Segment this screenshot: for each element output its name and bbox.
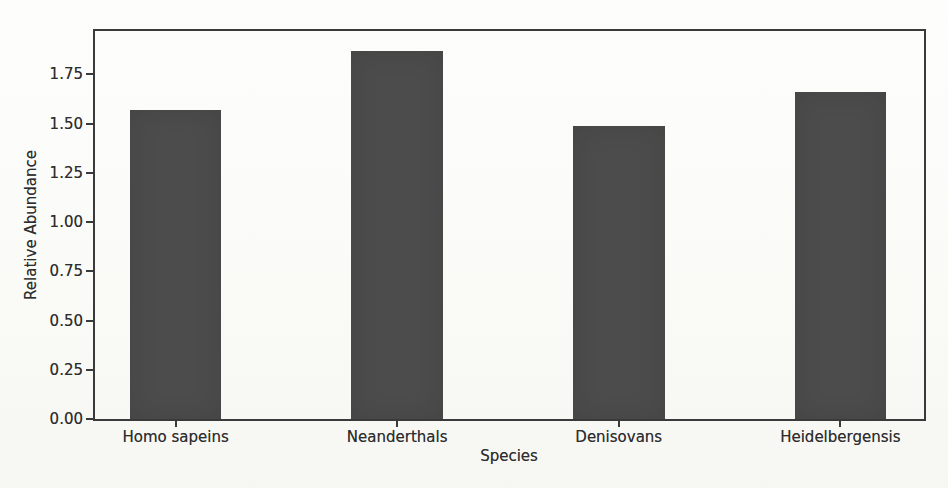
y-tick-mark bbox=[86, 418, 93, 420]
y-tick-label: 1.25 bbox=[50, 164, 83, 182]
y-tick-label: 1.00 bbox=[50, 213, 83, 231]
x-tick-label: Homo sapeins bbox=[122, 428, 228, 447]
y-tick-label: 1.50 bbox=[50, 115, 83, 133]
plot-area: 0.000.250.500.751.001.251.501.75Homo sap… bbox=[93, 29, 926, 421]
y-tick-mark bbox=[86, 369, 93, 371]
bar-homo-sapeins bbox=[130, 110, 222, 419]
bar-denisovans bbox=[573, 126, 665, 419]
y-tick-label: 0.75 bbox=[50, 262, 83, 280]
x-tick-label: Neanderthals bbox=[347, 428, 448, 447]
bar-neanderthals bbox=[351, 51, 443, 419]
y-axis-label: Relative Abundance bbox=[22, 150, 40, 300]
x-tick-label: Denisovans bbox=[575, 428, 662, 447]
y-tick-label: 1.75 bbox=[50, 65, 83, 83]
x-tick-mark bbox=[396, 421, 398, 427]
x-axis-label: Species bbox=[480, 447, 538, 466]
x-tick-mark bbox=[839, 421, 841, 427]
y-tick-mark bbox=[86, 123, 93, 125]
y-tick-label: 0.50 bbox=[50, 312, 83, 330]
bar-heidelbergensis bbox=[795, 92, 887, 419]
y-tick-mark bbox=[86, 172, 93, 174]
y-tick-mark bbox=[86, 270, 93, 272]
x-tick-mark bbox=[175, 421, 177, 427]
y-tick-label: 0.00 bbox=[50, 410, 83, 428]
y-tick-label: 0.25 bbox=[50, 361, 83, 379]
y-tick-mark bbox=[86, 73, 93, 75]
x-tick-mark bbox=[618, 421, 620, 427]
y-tick-mark bbox=[86, 221, 93, 223]
y-tick-mark bbox=[86, 320, 93, 322]
x-tick-label: Heidelbergensis bbox=[780, 428, 900, 447]
bar-chart-figure: Relative Abundance 0.000.250.500.751.001… bbox=[0, 0, 948, 488]
